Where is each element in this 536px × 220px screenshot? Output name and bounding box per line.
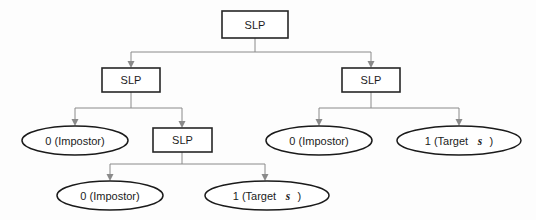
leaf-right-target-suffix: ) <box>490 135 494 147</box>
leaf-bottom-target-prefix: 1 (Target <box>233 190 276 202</box>
arrowhead-leaf-b-impostor <box>107 174 114 181</box>
right-slp-label: SLP <box>361 74 382 86</box>
edge-rightslp-to-children <box>319 92 459 119</box>
node-right-slp[interactable]: SLP <box>342 68 400 92</box>
edge-innerslp-to-children <box>110 152 265 174</box>
inner-slp-label: SLP <box>172 134 193 146</box>
edge-group-inner-slp <box>107 152 269 181</box>
edge-group-right-slp <box>316 92 463 126</box>
node-root-slp[interactable]: SLP <box>222 11 288 38</box>
edge-group-left-slp <box>72 92 186 128</box>
arrowhead-leaf-r-impostor <box>316 119 323 126</box>
arrowhead-left-slp <box>128 61 135 68</box>
node-leaf-right-impostor[interactable]: 0 (Impostor) <box>266 126 372 155</box>
edge-leftslp-to-children <box>75 92 182 122</box>
leaf-right-impostor-label: 0 (Impostor) <box>289 135 348 147</box>
leaf-bottom-target-symbol: s <box>285 190 291 202</box>
edge-group-root <box>128 38 375 68</box>
root-slp-label: SLP <box>245 19 266 31</box>
leaf-bottom-impostor-label: 0 (Impostor) <box>80 190 139 202</box>
leaf-right-target-symbol: s <box>477 135 483 147</box>
node-inner-slp[interactable]: SLP <box>153 128 212 152</box>
diagram-canvas: SLP SLP SLP SLP 0 (Impostor) 0 (Impostor… <box>0 0 536 220</box>
arrowhead-leaf-b-target <box>262 174 269 181</box>
node-left-slp[interactable]: SLP <box>102 68 160 92</box>
arrowhead-leaf-l-impostor <box>72 119 79 126</box>
leaf-left-impostor-label: 0 (Impostor) <box>45 135 104 147</box>
leaf-bottom-target-suffix: ) <box>298 190 302 202</box>
arrowhead-leaf-r-target <box>456 119 463 126</box>
arrowhead-right-slp <box>368 61 375 68</box>
edge-root-to-level2 <box>131 38 371 62</box>
node-leaf-bottom-target[interactable]: 1 (Target s ) <box>205 181 329 210</box>
tree-diagram: SLP SLP SLP SLP 0 (Impostor) 0 (Impostor… <box>0 0 536 220</box>
node-leaf-bottom-impostor[interactable]: 0 (Impostor) <box>57 181 163 210</box>
node-leaf-right-target[interactable]: 1 (Target s ) <box>397 126 521 155</box>
arrowhead-inner-slp <box>179 121 186 128</box>
node-leaf-left-impostor[interactable]: 0 (Impostor) <box>22 126 128 155</box>
left-slp-label: SLP <box>121 74 142 86</box>
leaf-right-target-prefix: 1 (Target <box>425 135 468 147</box>
